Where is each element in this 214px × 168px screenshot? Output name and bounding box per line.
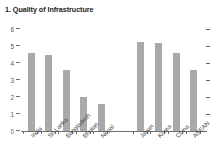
y-axis-tick-label: 4 (10, 59, 14, 68)
y-axis-tick-3: 3 (0, 76, 20, 85)
y-axis-tick-dash-icon (16, 28, 20, 29)
y-axis-right-tick-dash-icon (206, 114, 210, 115)
y-axis-tick-6: 6 (0, 25, 20, 34)
y-axis-right-tick-dash-icon (206, 29, 210, 30)
y-axis-right-tick-dash-icon (206, 80, 210, 81)
y-axis-tick-label: 1 (10, 110, 14, 119)
y-axis-tick-label: 6 (10, 25, 14, 34)
y-axis-tick-0: 0 (0, 127, 20, 136)
y-axis-tick-dash-icon (16, 45, 20, 46)
y-axis-tick-label: 2 (10, 93, 14, 102)
y-axis-tick-dash-icon (16, 96, 20, 97)
bar (28, 53, 35, 131)
y-axis-tick-4: 4 (0, 59, 20, 68)
bar (155, 43, 162, 131)
y-axis-tick-dash-icon (16, 130, 20, 131)
bar (137, 42, 144, 131)
y-axis-right-tick-dash-icon (206, 46, 210, 47)
y-axis-tick-2: 2 (0, 93, 20, 102)
x-axis-tick-mark (93, 131, 94, 134)
y-axis-tick-dash-icon (16, 79, 20, 80)
bar (98, 104, 105, 131)
x-axis-tick-mark (23, 131, 24, 134)
bar (45, 55, 52, 132)
y-axis-tick-label: 5 (10, 42, 14, 51)
y-axis-tick-dash-icon (16, 62, 20, 63)
x-axis-tick-mark (133, 131, 134, 134)
y-axis-tick-label: 3 (10, 76, 14, 85)
y-axis-right-tick-dash-icon (206, 63, 210, 64)
y-axis-tick-1: 1 (0, 110, 20, 119)
y-axis-tick-label: 0 (10, 127, 14, 136)
plot-area: 0123456 IndiaSri LankaBangladeshBhutanNe… (0, 0, 214, 168)
bar (173, 53, 180, 131)
y-axis-right-tick-dash-icon (206, 97, 210, 98)
chart-figure: 1. Quality of Infrastructure 0123456 Ind… (0, 0, 214, 168)
y-axis-tick-dash-icon (16, 113, 20, 114)
bar (190, 70, 197, 131)
y-axis-tick-5: 5 (0, 42, 20, 51)
